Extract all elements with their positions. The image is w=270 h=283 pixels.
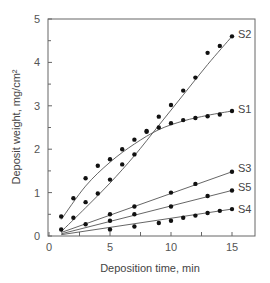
data-point <box>205 194 209 198</box>
data-point <box>132 212 136 216</box>
data-point <box>132 152 136 156</box>
data-point <box>83 176 87 180</box>
y-tick-label: 5 <box>34 13 40 25</box>
data-point <box>230 34 234 38</box>
series-label-s5: S5 <box>238 181 251 193</box>
y-tick-label: 3 <box>34 100 40 112</box>
data-point <box>205 51 209 55</box>
series-label-s2: S2 <box>238 28 251 40</box>
data-point <box>132 204 136 208</box>
x-tick-label: 5 <box>107 241 113 253</box>
data-point <box>181 216 185 220</box>
data-point <box>108 219 112 223</box>
data-point <box>96 163 100 167</box>
data-point <box>157 125 161 129</box>
data-point <box>230 109 234 113</box>
chart: 012345 051015 S2S1S3S5S4 Deposition time… <box>0 0 270 283</box>
y-tick-label: 2 <box>34 143 40 155</box>
data-point <box>169 121 173 125</box>
data-point <box>218 112 222 116</box>
data-point <box>120 147 124 151</box>
data-point <box>157 114 161 118</box>
data-point <box>230 188 234 192</box>
data-point <box>157 221 161 225</box>
data-point <box>169 190 173 194</box>
data-point <box>169 219 173 223</box>
x-tick-label: 15 <box>226 241 238 253</box>
y-tick-label: 1 <box>34 187 40 199</box>
data-point <box>181 88 185 92</box>
data-point <box>108 212 112 216</box>
data-point <box>108 157 112 161</box>
x-tick-label: 0 <box>46 241 52 253</box>
data-point <box>205 211 209 215</box>
data-point <box>108 177 112 181</box>
x-axis-ticks: 051015 <box>46 232 238 253</box>
y-tick-label: 4 <box>34 56 40 68</box>
y-tick-label: 0 <box>34 230 40 242</box>
y-axis-ticks: 012345 <box>34 13 52 242</box>
data-point <box>71 196 75 200</box>
data-point <box>83 222 87 226</box>
series-label-s3: S3 <box>238 162 251 174</box>
data-point <box>193 116 197 120</box>
data-point <box>193 182 197 186</box>
data-point <box>71 216 75 220</box>
data-point <box>169 204 173 208</box>
data-point <box>193 75 197 79</box>
data-point <box>181 118 185 122</box>
data-point <box>218 44 222 48</box>
data-point <box>230 207 234 211</box>
series-labels: S2S1S3S5S4 <box>238 28 251 215</box>
data-point <box>132 137 136 141</box>
y-axis-title: Deposit weight, mg/cm² <box>10 69 22 184</box>
data-point <box>132 224 136 228</box>
series-label-s4: S4 <box>238 203 251 215</box>
data-point <box>193 213 197 217</box>
data-point <box>230 170 234 174</box>
data-point <box>108 227 112 231</box>
data-point <box>120 162 124 166</box>
plot-frame <box>48 19 255 236</box>
series-label-s1: S1 <box>238 103 251 115</box>
x-axis-title: Deposition time, min <box>100 262 200 274</box>
data-point <box>218 209 222 213</box>
x-tick-label: 10 <box>165 241 177 253</box>
data-point <box>169 103 173 107</box>
data-point <box>205 114 209 118</box>
data-point <box>59 214 63 218</box>
fit-lines <box>61 36 232 234</box>
data-point <box>144 130 148 134</box>
data-point <box>59 227 63 231</box>
data-point <box>83 200 87 204</box>
data-point <box>96 191 100 195</box>
